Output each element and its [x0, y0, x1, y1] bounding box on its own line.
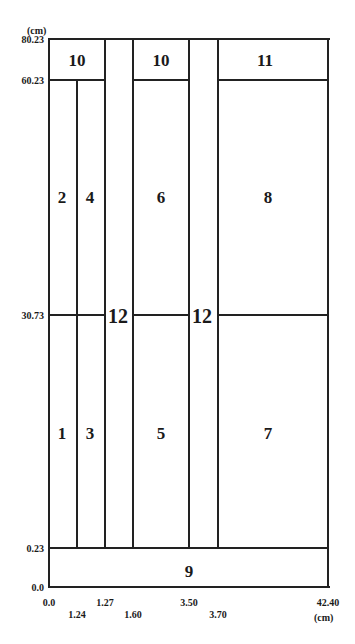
- region-6: 6: [157, 188, 166, 208]
- line-y-30-73-mid: [133, 314, 190, 316]
- line-y-60-23-mid: [133, 79, 190, 81]
- region-10-mid: 10: [153, 51, 170, 71]
- right-border: [327, 38, 329, 588]
- region-7: 7: [264, 424, 273, 444]
- region-8: 8: [264, 188, 273, 208]
- x-tick-3-70: 3.70: [209, 609, 227, 620]
- bottom-border: [49, 586, 330, 588]
- y-tick-80-23: 80.23: [0, 34, 44, 45]
- region-5: 5: [157, 424, 166, 444]
- line-x-1-60: [132, 38, 134, 548]
- y-tick-0-0: 0.0: [0, 582, 44, 593]
- line-y-30-73-right: [218, 314, 329, 316]
- x-tick-1-27: 1.27: [96, 597, 114, 608]
- region-1: 1: [58, 424, 67, 444]
- region-12-left: 12: [108, 305, 128, 328]
- y-tick-30-73: 30.73: [0, 310, 44, 321]
- x-axis-unit: (cm): [314, 612, 333, 623]
- x-tick-42-40: 42.40: [317, 597, 340, 608]
- left-border: [48, 38, 50, 588]
- line-x-1-27: [104, 38, 106, 548]
- x-tick-1-60: 1.60: [124, 609, 142, 620]
- line-x-1-24: [76, 80, 78, 548]
- region-12-right: 12: [192, 305, 212, 328]
- region-9: 9: [185, 562, 194, 582]
- x-tick-0-0: 0.0: [43, 597, 56, 608]
- x-tick-1-24: 1.24: [68, 609, 86, 620]
- region-11: 11: [257, 51, 273, 71]
- region-2: 2: [58, 188, 67, 208]
- line-x-3-50: [188, 38, 190, 548]
- line-y-60-23-right: [218, 79, 329, 81]
- y-tick-60-23: 60.23: [0, 75, 44, 86]
- y-tick-0-23: 0.23: [0, 543, 44, 554]
- region-4: 4: [86, 188, 95, 208]
- line-x-3-70: [217, 38, 219, 548]
- x-tick-3-50: 3.50: [180, 597, 198, 608]
- region-3: 3: [86, 424, 95, 444]
- region-10-left: 10: [69, 51, 86, 71]
